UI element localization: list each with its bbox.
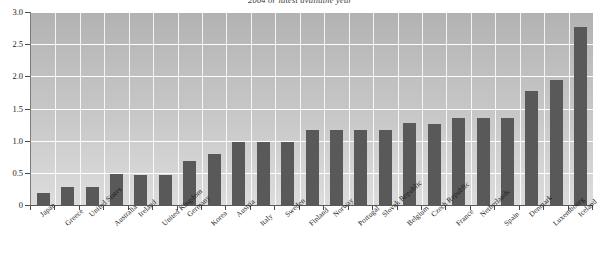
vertical-gridline — [422, 12, 423, 205]
vertical-gridline — [373, 12, 374, 205]
bar — [477, 118, 490, 205]
vertical-gridline — [520, 12, 521, 205]
gridline — [31, 76, 593, 77]
bar — [306, 130, 319, 205]
x-axis-label: Korea — [209, 209, 229, 228]
chart-title: 2004 or latest available year — [0, 0, 600, 5]
vertical-gridline — [129, 12, 130, 205]
x-axis-label: Finland — [307, 205, 330, 227]
x-axis-tick-mark — [519, 206, 520, 210]
x-axis-tick-mark — [30, 206, 31, 210]
vertical-gridline — [104, 12, 105, 205]
vertical-gridline — [544, 12, 545, 205]
bar — [257, 142, 270, 205]
x-axis-label: Belgium — [405, 203, 430, 227]
y-axis-tick-label: 0.5 — [0, 168, 23, 178]
y-axis-tick-label: 2.5 — [0, 39, 23, 49]
vertical-gridline — [202, 12, 203, 205]
bar — [525, 91, 538, 206]
vertical-gridline — [569, 12, 570, 205]
x-axis-label: Spain — [502, 209, 521, 227]
vertical-gridline — [226, 12, 227, 205]
bar — [134, 175, 147, 205]
vertical-gridline — [153, 12, 154, 205]
bar — [550, 80, 563, 205]
bar — [354, 130, 367, 205]
x-axis-label: Portugal — [356, 204, 381, 228]
gridline — [31, 44, 593, 45]
x-axis-label: France — [454, 207, 475, 228]
vertical-gridline — [471, 12, 472, 205]
bar — [159, 175, 172, 205]
vertical-gridline — [349, 12, 350, 205]
x-axis-label: Australia — [112, 202, 139, 227]
x-axis-label: Greece — [63, 207, 85, 228]
gridline — [31, 12, 593, 13]
gridline — [31, 109, 593, 110]
y-axis-tick-label: 0 — [0, 200, 23, 210]
x-axis-tick-mark — [225, 206, 226, 210]
vertical-gridline — [178, 12, 179, 205]
vertical-gridline — [55, 12, 56, 205]
y-axis-tick-label: 3.0 — [0, 7, 23, 17]
vertical-gridline — [300, 12, 301, 205]
vertical-gridline — [251, 12, 252, 205]
y-axis-tick-label: 1.5 — [0, 104, 23, 114]
bar — [574, 27, 587, 205]
x-axis-tick-mark — [274, 206, 275, 210]
vertical-gridline — [398, 12, 399, 205]
vertical-gridline — [324, 12, 325, 205]
bar — [281, 142, 294, 205]
chart-container: 2004 or latest available year 00.51.01.5… — [0, 0, 600, 271]
plot-area — [30, 12, 593, 206]
bar — [330, 130, 343, 205]
vertical-gridline — [495, 12, 496, 205]
bar — [379, 130, 392, 205]
bar — [428, 124, 441, 205]
vertical-gridline — [80, 12, 81, 205]
y-axis-tick-label: 1.0 — [0, 136, 23, 146]
bar — [61, 187, 74, 205]
y-axis-tick-label: 2.0 — [0, 71, 23, 81]
x-axis-label: Italy — [258, 212, 274, 228]
vertical-gridline — [446, 12, 447, 205]
vertical-gridline — [275, 12, 276, 205]
bar — [232, 142, 245, 205]
